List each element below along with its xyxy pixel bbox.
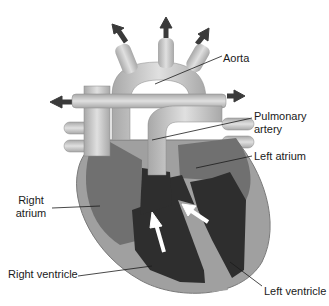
label-right-atrium-line2: atrium	[12, 207, 50, 219]
label-right-atrium-line1: Right	[14, 194, 48, 206]
label-pulmonary-artery-line2: artery	[254, 123, 282, 135]
label-pulmonary-artery-line1: Pulmonary	[254, 110, 307, 122]
label-right-ventricle: Right ventricle	[8, 268, 78, 280]
label-aorta: Aorta	[223, 52, 249, 64]
label-left-ventricle: Left ventricle	[264, 285, 326, 297]
label-left-atrium: Left atrium	[254, 150, 306, 162]
